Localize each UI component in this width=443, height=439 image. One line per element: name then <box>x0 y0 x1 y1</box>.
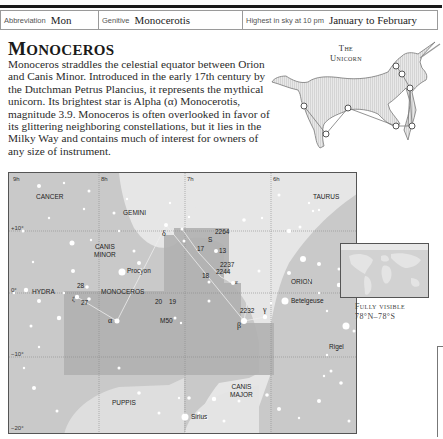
label-canis-major-line1: CANIS <box>230 383 253 391</box>
figure-caption: The Unicorn <box>316 43 376 63</box>
label-canis-minor-line2: MINOR <box>94 251 116 259</box>
star-chart: 9h 8h 7h 6h +10° 0° −10° −20° CANCER GEM… <box>8 172 357 434</box>
dec-label-minus10: −10° <box>11 351 24 357</box>
world-map-icon <box>341 244 429 298</box>
star-beta: β <box>237 321 241 330</box>
label-puppis: PUPPIS <box>112 399 136 407</box>
genitive-cell: Genitive Monocerotis <box>99 11 243 29</box>
label-taurus: TAURUS <box>313 193 339 201</box>
visibility-caption: Fully visible 78°N–78°S <box>355 302 405 321</box>
genitive-label: Genitive <box>102 16 130 25</box>
title-initial: M <box>8 38 26 59</box>
description-text: Monoceros straddles the celestial equato… <box>8 58 273 157</box>
dec-label-minus20: −20° <box>11 425 24 431</box>
object-ngc2237: 2237 <box>220 261 234 268</box>
star-gamma: γ <box>263 305 267 314</box>
figure-caption-line1: The <box>316 43 376 53</box>
abbreviation-label: Abbreviation <box>4 16 46 25</box>
visibility-line1: Fully visible <box>355 302 405 312</box>
label-canis-major: CANIS MAJOR <box>230 383 253 398</box>
dec-label-plus10: +10° <box>11 225 24 231</box>
star-procyon: Procyon <box>127 267 151 274</box>
star-17: 17 <box>197 245 204 252</box>
ra-label-6h: 6h <box>273 176 280 182</box>
ra-label-7h: 7h <box>187 176 194 182</box>
star-alpha: α <box>108 316 112 325</box>
top-rule <box>0 5 442 8</box>
star-s: S <box>208 236 212 243</box>
star-rigel: Rigel <box>329 343 344 350</box>
star-19: 19 <box>169 298 176 305</box>
ra-label-9h: 9h <box>13 176 20 182</box>
page-edge-bracket <box>437 346 443 437</box>
star-13: 13 <box>219 247 226 254</box>
label-canis-major-line2: MAJOR <box>230 391 253 399</box>
world-visibility-map <box>340 243 429 298</box>
title-rest: ONOCEROS <box>26 42 114 58</box>
label-canis-minor: CANIS MINOR <box>94 243 116 258</box>
star-zeta: ζ <box>72 295 75 303</box>
star-28: 28 <box>77 282 84 289</box>
object-ngc2264: 2264 <box>215 228 229 235</box>
highest-label: Highest in sky at 10 pm <box>246 16 324 25</box>
dec-label-0: 0° <box>11 287 17 293</box>
star-epsilon: ε <box>235 278 238 286</box>
ra-label-8h: 8h <box>101 176 108 182</box>
label-canis-minor-line1: CANIS <box>94 243 116 251</box>
label-cancer: CANCER <box>36 193 63 201</box>
object-ngc2232: 2232 <box>240 307 254 314</box>
visibility-line2: 78°N–78°S <box>355 312 405 322</box>
star-27: 27 <box>81 299 88 306</box>
page-title: MONOCEROS <box>8 38 114 60</box>
label-monoceros: MONOCEROS <box>101 288 144 296</box>
label-gemini: GEMINI <box>123 209 146 217</box>
genitive-value: Monocerotis <box>135 14 191 26</box>
star-delta: δ <box>162 229 166 238</box>
object-ngc2244: 2244 <box>216 268 230 275</box>
star-betelgeuse: Betelgeuse <box>291 297 324 304</box>
highest-cell: Highest in sky at 10 pm January to Febru… <box>243 11 437 29</box>
star-18: 18 <box>202 272 209 279</box>
object-m50: M50 <box>160 317 173 324</box>
label-hydra: HYDRA <box>32 288 55 296</box>
label-orion: ORION <box>291 278 312 286</box>
star-sirius: Sirius <box>191 413 207 420</box>
figure-caption-line2: Unicorn <box>316 53 376 63</box>
star-20: 20 <box>155 298 162 305</box>
highest-value: January to February <box>329 14 417 26</box>
info-bar: Abbreviation Mon Genitive Monocerotis Hi… <box>0 10 438 30</box>
abbreviation-value: Mon <box>51 14 72 26</box>
abbreviation-cell: Abbreviation Mon <box>1 11 99 29</box>
